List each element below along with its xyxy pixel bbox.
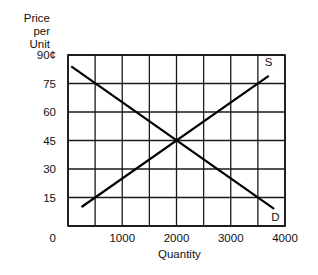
y-tick-label: 60 — [0, 106, 56, 118]
y-tick-label: 30 — [0, 163, 56, 175]
x-tick-label: 1000 — [102, 232, 142, 244]
x-axis-title: Quantity — [158, 248, 201, 260]
y-tick-label: 90¢ — [0, 49, 56, 61]
x-tick-label: 3000 — [211, 232, 251, 244]
y-tick-label: 45 — [0, 135, 56, 147]
origin-label: 0 — [0, 232, 56, 244]
supply-curve-label: S — [265, 56, 273, 68]
demand-curve — [71, 66, 274, 209]
y-tick-label: 15 — [0, 192, 56, 204]
y-tick-label: 75 — [0, 78, 56, 90]
x-tick-label: 2000 — [157, 232, 197, 244]
supply-curve — [82, 76, 269, 207]
x-tick-label: 4000 — [265, 232, 305, 244]
demand-curve-label: D — [271, 211, 279, 223]
